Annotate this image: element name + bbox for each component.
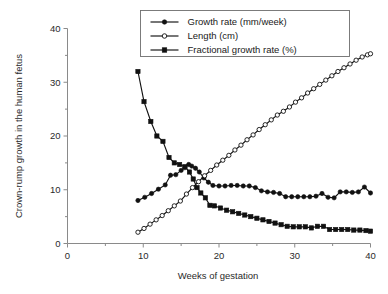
data-point-filled-square <box>303 225 307 229</box>
data-point-filled-square <box>162 48 167 53</box>
data-point-filled-circle <box>193 166 197 170</box>
data-point-open-circle <box>287 105 291 109</box>
data-point-filled-square <box>224 208 228 212</box>
data-point-open-circle <box>354 58 358 62</box>
data-point-filled-circle <box>308 195 312 199</box>
data-point-open-circle <box>251 133 255 137</box>
data-point-filled-square <box>187 170 191 174</box>
data-point-filled-circle <box>320 191 324 195</box>
data-point-filled-circle <box>253 185 257 189</box>
data-point-filled-square <box>279 223 283 227</box>
data-point-open-circle <box>166 209 170 213</box>
data-point-filled-circle <box>149 191 153 195</box>
data-point-open-circle <box>305 91 309 95</box>
data-point-open-circle <box>312 87 316 91</box>
data-point-open-circle <box>330 74 334 78</box>
data-point-filled-circle <box>338 190 342 194</box>
data-point-filled-square <box>334 227 338 231</box>
data-point-filled-square <box>149 119 153 123</box>
data-point-filled-square <box>218 206 222 210</box>
data-point-filled-square <box>297 225 301 229</box>
data-point-filled-circle <box>271 190 275 194</box>
data-point-open-circle <box>324 78 328 82</box>
data-point-filled-square <box>291 225 295 229</box>
data-point-filled-circle <box>350 190 354 194</box>
data-point-open-circle <box>263 123 267 127</box>
data-point-filled-circle <box>259 189 263 193</box>
data-point-filled-square <box>315 224 319 228</box>
data-point-open-circle <box>239 143 243 147</box>
data-point-filled-circle <box>211 183 215 187</box>
data-point-filled-square <box>249 214 253 218</box>
data-point-filled-square <box>309 226 313 230</box>
data-point-open-circle <box>257 127 261 131</box>
data-point-filled-circle <box>265 190 269 194</box>
data-point-filled-square <box>285 224 289 228</box>
data-point-filled-circle <box>235 183 239 187</box>
data-point-filled-square <box>340 227 344 231</box>
data-point-filled-square <box>183 164 187 168</box>
data-point-open-circle <box>142 226 146 230</box>
data-point-filled-circle <box>136 198 140 202</box>
data-point-open-circle <box>184 192 188 196</box>
data-point-filled-square <box>203 196 207 200</box>
x-axis-title: Weeks of gestation <box>178 270 259 281</box>
data-point-filled-square <box>191 177 195 181</box>
data-point-filled-circle <box>197 170 201 174</box>
data-point-filled-square <box>208 203 212 207</box>
data-point-open-circle <box>190 185 194 189</box>
data-point-open-circle <box>336 69 340 73</box>
data-point-filled-circle <box>168 173 172 177</box>
data-point-filled-circle <box>277 191 281 195</box>
data-point-filled-square <box>267 219 271 223</box>
chart-figure: 010203040 010203040 Crown-rump growth in… <box>0 0 388 294</box>
data-point-filled-square <box>155 134 159 138</box>
y-tick-label: 40 <box>50 23 61 34</box>
data-point-filled-circle <box>362 185 366 189</box>
data-point-filled-square <box>255 216 259 220</box>
x-tick-label: 0 <box>65 250 70 261</box>
data-point-open-circle <box>269 118 273 122</box>
data-point-open-circle <box>148 222 152 226</box>
data-point-filled-square <box>161 139 165 143</box>
data-point-filled-square <box>172 161 176 165</box>
data-point-filled-circle <box>284 195 288 199</box>
data-point-filled-square <box>358 228 362 232</box>
data-point-filled-circle <box>302 195 306 199</box>
data-point-filled-circle <box>332 196 336 200</box>
data-point-filled-circle <box>206 180 210 184</box>
data-point-filled-square <box>352 228 356 232</box>
data-point-open-circle <box>275 113 279 117</box>
x-tick-label: 20 <box>214 250 225 261</box>
legend-label: Length (cm) <box>188 30 239 41</box>
data-point-open-circle <box>342 66 346 70</box>
data-point-filled-square <box>237 211 241 215</box>
data-point-filled-circle <box>356 190 360 194</box>
data-point-filled-square <box>212 204 216 208</box>
legend-label: Growth rate (mm/week) <box>188 16 287 27</box>
data-point-filled-circle <box>296 195 300 199</box>
data-point-open-circle <box>172 204 176 208</box>
data-point-open-circle <box>318 82 322 86</box>
data-point-filled-square <box>261 218 265 222</box>
data-point-open-circle <box>227 153 231 157</box>
data-point-filled-square <box>167 155 171 159</box>
data-point-open-circle <box>299 96 303 100</box>
data-point-filled-circle <box>143 195 147 199</box>
data-point-open-circle <box>196 180 200 184</box>
y-tick-label: 10 <box>50 184 61 195</box>
data-point-open-circle <box>368 52 372 56</box>
data-point-filled-circle <box>217 184 221 188</box>
data-point-filled-circle <box>174 173 178 177</box>
legend-label: Fractional growth rate (%) <box>188 44 297 55</box>
data-point-filled-square <box>199 191 203 195</box>
data-point-open-circle <box>215 163 219 167</box>
x-tick-label: 40 <box>365 250 376 261</box>
data-point-open-circle <box>293 100 297 104</box>
data-point-filled-circle <box>344 190 348 194</box>
data-point-filled-square <box>327 227 331 231</box>
data-point-open-circle <box>233 148 237 152</box>
data-point-open-circle <box>281 109 285 113</box>
data-point-filled-circle <box>326 195 330 199</box>
y-tick-label: 20 <box>50 130 61 141</box>
